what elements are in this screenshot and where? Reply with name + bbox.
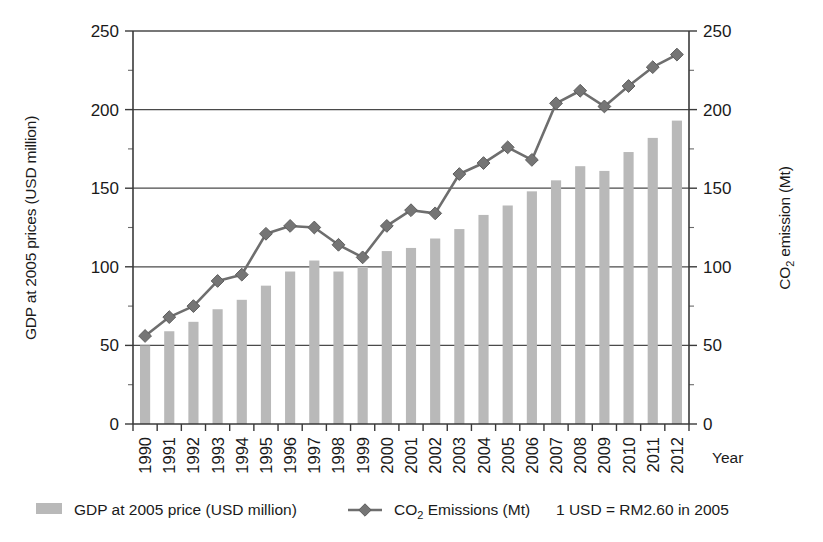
- legend-note-conversion: 1 USD = RM2.60 in 2005: [556, 501, 729, 518]
- chart-legend: GDP at 2005 price (USD million)CO2 Emiss…: [36, 501, 729, 521]
- x-tick-label: 1994: [233, 437, 251, 474]
- x-tick-label: 1992: [184, 437, 202, 474]
- x-tick-label: 1999: [354, 437, 372, 474]
- co2-marker: [477, 157, 490, 170]
- x-tick-label: 1998: [329, 437, 347, 474]
- x-tick-label: 2000: [378, 437, 396, 474]
- x-tick-label: 1991: [160, 437, 178, 474]
- x-tick-label: 2003: [450, 437, 468, 474]
- y-tick-label-right: 150: [703, 179, 731, 198]
- y-tick-label-right: 250: [703, 22, 731, 41]
- co2-marker: [284, 220, 297, 233]
- bar: [551, 180, 561, 424]
- x-tick-label: 2006: [523, 437, 541, 474]
- bar: [454, 229, 464, 424]
- gdp-co2-combo-chart: GDP at 2005 prices (USD million) CO2 emi…: [0, 0, 823, 542]
- bar: [213, 309, 223, 424]
- co2-marker: [260, 227, 273, 240]
- x-tick-label: 2009: [595, 437, 613, 474]
- co2-marker: [525, 154, 538, 167]
- y-tick-label-left: 200: [91, 101, 119, 120]
- bar: [382, 251, 392, 424]
- y-tick-label-left: 150: [91, 179, 119, 198]
- bar: [406, 248, 416, 424]
- y-tick-label-left: 100: [91, 258, 119, 277]
- y-tick-label-right: 100: [703, 258, 731, 277]
- bar: [237, 300, 247, 424]
- x-tick-label: 1990: [136, 437, 154, 474]
- x-tick-label: 1993: [209, 437, 227, 474]
- bar: [648, 138, 658, 424]
- bar: [358, 267, 368, 424]
- bar: [261, 286, 271, 424]
- co2-marker: [235, 268, 248, 281]
- x-tick-label: 1997: [305, 437, 323, 474]
- x-tick-label: 1995: [257, 437, 275, 474]
- bar: [333, 272, 343, 424]
- x-tick-label: 2004: [475, 437, 493, 474]
- bar: [309, 261, 319, 424]
- x-tick-label: 2010: [620, 437, 638, 474]
- co2-marker: [405, 204, 418, 217]
- y-tick-label-left: 50: [100, 336, 119, 355]
- legend-label-co2: CO2 Emissions (Mt): [394, 501, 530, 521]
- bar: [527, 191, 537, 424]
- legend-label-gdp: GDP at 2005 price (USD million): [74, 501, 297, 518]
- svg-text:CO2 emission (Mt): CO2 emission (Mt): [776, 166, 796, 289]
- bar: [575, 166, 585, 424]
- bar: [430, 239, 440, 424]
- x-tick-label: 2012: [668, 437, 686, 474]
- y-tick-label-right: 0: [703, 415, 712, 434]
- bar: [478, 215, 488, 424]
- x-tick-label: 1996: [281, 437, 299, 474]
- x-tick-label: 2001: [402, 437, 420, 474]
- x-tick-label: 2011: [644, 437, 662, 472]
- co2-marker: [550, 97, 563, 110]
- x-tick-label: 2002: [426, 437, 444, 474]
- y-tick-label-right: 200: [703, 101, 731, 120]
- bar: [503, 205, 513, 424]
- y-tick-label-left: 250: [91, 22, 119, 41]
- x-tick-label: 2005: [499, 437, 517, 474]
- co2-marker: [671, 48, 684, 61]
- bar: [164, 331, 174, 424]
- bar: [188, 322, 198, 424]
- right-axis-title: CO2 emission (Mt): [776, 166, 796, 289]
- plot-area: 0050501001001501502002002502501990199119…: [91, 22, 732, 474]
- right-axis-title-post: emission (Mt): [776, 166, 793, 261]
- x-tick-label: 2008: [571, 437, 589, 474]
- x-tick-label: 2007: [547, 437, 565, 474]
- left-axis-title: GDP at 2005 prices (USD million): [22, 116, 39, 340]
- co2-marker: [429, 207, 442, 220]
- bar: [623, 152, 633, 424]
- right-axis-title-pre: CO: [776, 267, 793, 290]
- y-tick-label-left: 0: [110, 415, 119, 434]
- legend-label-co2-post: Emissions (Mt): [423, 501, 530, 518]
- legend-marker-co2: [359, 504, 371, 516]
- bar: [599, 171, 609, 424]
- x-axis-title: Year: [712, 449, 743, 466]
- chart-figure: GDP at 2005 prices (USD million) CO2 emi…: [0, 0, 823, 542]
- bar: [672, 121, 682, 424]
- co2-marker: [453, 168, 466, 181]
- co2-marker: [501, 141, 514, 154]
- y-tick-label-right: 50: [703, 336, 722, 355]
- legend-label-co2-pre: CO: [394, 501, 417, 518]
- legend-swatch-gdp: [36, 503, 62, 514]
- co2-marker: [574, 84, 587, 97]
- bar: [285, 272, 295, 424]
- bar: [140, 345, 150, 424]
